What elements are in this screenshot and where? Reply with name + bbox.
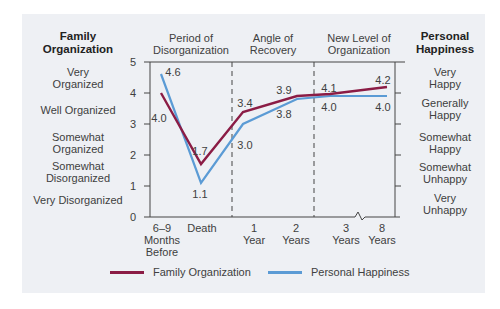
ytick-2: 2 [126, 149, 140, 161]
value-label-family-4: 4.1 [318, 82, 340, 94]
value-label-happiness-2: 3.0 [234, 139, 256, 151]
xlabel-8-years: 8 Years [362, 222, 402, 246]
legend-item-happiness: Personal Happiness [268, 266, 409, 278]
xlabel-line: 1 [236, 222, 272, 234]
value-label-happiness-4: 4.0 [318, 101, 340, 113]
legend-label-happiness: Personal Happiness [311, 266, 409, 278]
xlabel-1-year: 1 Year [236, 222, 272, 246]
ytick-1: 1 [126, 180, 140, 192]
ytick-5: 5 [126, 56, 140, 68]
xlabel-3-years: 3 Years [326, 222, 366, 246]
xlabel-6-9-months: 6–9 Months Before [140, 222, 184, 258]
value-label-family-1: 1.7 [189, 145, 211, 157]
value-label-happiness-1: 1.1 [189, 188, 211, 200]
xlabel-line: Year [236, 234, 272, 246]
left-ticks [144, 62, 150, 186]
legend-item-family: Family Organization [110, 266, 251, 278]
xlabel-line: Months [140, 234, 184, 246]
value-label-happiness-3: 3.8 [273, 108, 295, 120]
legend-label-family: Family Organization [153, 266, 251, 278]
xlabel-line: Before [140, 246, 184, 258]
value-label-family-2: 3.4 [234, 97, 256, 109]
xlabel-line: 6–9 [140, 222, 184, 234]
xlabel-line: Years [326, 234, 366, 246]
ytick-3: 3 [126, 118, 140, 130]
xlabel-line: 3 [326, 222, 366, 234]
value-label-family-0: 4.0 [148, 112, 170, 124]
xlabel-line: Years [362, 234, 402, 246]
xlabel-2-years: 2 Years [276, 222, 316, 246]
legend-swatch-happiness-icon [268, 271, 302, 274]
line-chart-plot [0, 0, 500, 309]
value-label-happiness-0: 4.6 [162, 66, 184, 78]
legend-swatch-family-icon [110, 271, 144, 274]
xlabel-line: Years [276, 234, 316, 246]
x-axis [144, 212, 400, 220]
xlabel-death: Death [182, 222, 222, 234]
ytick-0: 0 [126, 211, 140, 223]
ytick-4: 4 [126, 87, 140, 99]
xlabel-line: 2 [276, 222, 316, 234]
value-label-family-5: 4.2 [372, 74, 394, 86]
xlabel-line: 8 [362, 222, 402, 234]
right-ticks [395, 93, 401, 186]
value-label-family-3: 3.9 [273, 84, 295, 96]
value-label-happiness-5: 4.0 [372, 101, 394, 113]
xlabel-line: Death [182, 222, 222, 234]
